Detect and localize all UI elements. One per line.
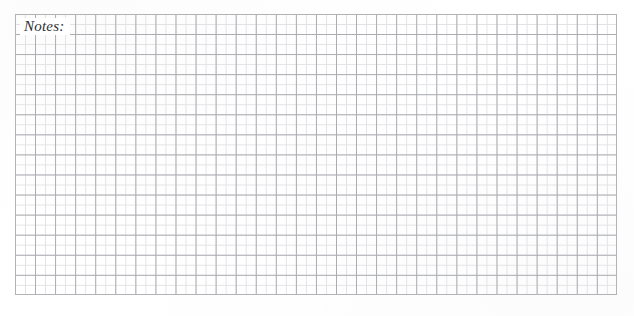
notes-label: Notes: [20, 18, 70, 35]
notes-label-text: Notes: [24, 18, 64, 35]
notes-page: Notes: [0, 0, 634, 316]
notes-grid-area[interactable] [15, 14, 617, 295]
